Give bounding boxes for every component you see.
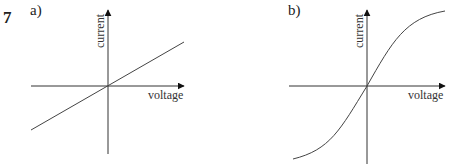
graph-a-y-label: current bbox=[93, 13, 107, 48]
diagram-canvas: voltage current voltage current bbox=[0, 0, 451, 164]
graph-b-curve bbox=[293, 11, 445, 159]
graph-b-y-label: current bbox=[352, 13, 366, 48]
graph-b: voltage current bbox=[289, 10, 445, 164]
graph-a-x-label: voltage bbox=[148, 88, 183, 102]
graph-b-x-label: voltage bbox=[408, 88, 443, 102]
graph-a: voltage current bbox=[31, 10, 184, 154]
